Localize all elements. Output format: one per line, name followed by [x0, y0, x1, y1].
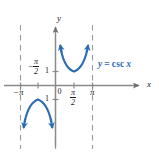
tick-label-neg-half-pi: −π2	[28, 58, 39, 77]
equation-lhs: y	[98, 59, 102, 69]
tick-label-half-pi: π2	[70, 89, 76, 108]
half-pi-fraction: π2	[70, 89, 76, 108]
csc-branch-positive-arrow-left	[60, 45, 61, 52]
half-pi-numerator: π	[70, 89, 76, 97]
graph-canvas	[0, 0, 159, 160]
csc-branch-positive-arrow-right	[87, 45, 88, 52]
neg-half-pi-fraction: π2	[33, 58, 39, 77]
neg-half-pi-denominator: 2	[33, 68, 39, 76]
half-pi-denominator: 2	[70, 99, 76, 107]
origin-label: 0	[58, 88, 62, 96]
asymptote-group	[21, 25, 93, 149]
tick-label-one-positive: 1	[45, 67, 49, 75]
equation-function: csc	[112, 59, 124, 69]
equation-argument: x	[126, 59, 131, 69]
tick-label-pi: π	[90, 88, 95, 97]
csc-branch-negative-arrow-right	[51, 119, 53, 128]
axes-group	[4, 27, 139, 147]
tick-label-neg-pi: −π	[13, 88, 24, 97]
equation-operator: =	[104, 59, 110, 69]
tick-label-one-negative: 1	[45, 95, 49, 103]
x-axis-label: x	[147, 80, 151, 89]
equation-label: y=cscx	[98, 59, 131, 69]
csc-graph-figure: y x 0 −π −π2 π2 π 1 1 y=cscx	[0, 0, 159, 160]
y-axis-label: y	[57, 14, 61, 23]
neg-half-pi-numerator: π	[33, 58, 39, 66]
csc-branch-positive	[61, 50, 87, 72]
csc-branch-negative-arrow-left	[24, 119, 26, 128]
